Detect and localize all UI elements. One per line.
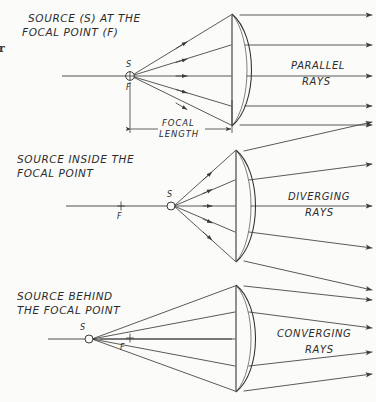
- incident-rays: [92, 286, 235, 391]
- focal-length-dimension: FOCAL LENGTH: [130, 82, 232, 139]
- panel-inside-focal-point: SOURCE INSIDE THE FOCAL POINT: [17, 122, 372, 290]
- focus-label: F: [120, 343, 125, 352]
- source-label: S: [167, 190, 173, 199]
- panel-focal-point: SOURCE (S) AT THE FOCAL POINT (F): [22, 12, 372, 139]
- panel-1-ray-label-line2: RAYS: [302, 76, 331, 87]
- incident-rays: [174, 151, 235, 261]
- focus-label: F: [117, 212, 122, 221]
- focus-point-marker: [118, 202, 125, 210]
- focus-label: F: [126, 83, 131, 92]
- panel-2-title-line2: FOCAL POINT: [17, 167, 95, 179]
- page-edge-artifact: r: [0, 42, 5, 55]
- panel-2-ray-label-line2: RAYS: [305, 207, 334, 218]
- panel-3-title-line1: SOURCE BEHIND: [17, 290, 113, 302]
- focal-length-label-line2: LENGTH: [159, 129, 199, 139]
- panel-1-ray-label-line1: PARALLEL: [291, 60, 345, 71]
- diverging-rays-output: [244, 122, 372, 290]
- panel-3-ray-label-line2: RAYS: [305, 344, 334, 355]
- source-point-marker: [126, 72, 135, 81]
- panel-2-title-line1: SOURCE INSIDE THE: [17, 153, 134, 165]
- panel-1-title-line1: SOURCE (S) AT THE: [28, 12, 141, 24]
- panel-2-ray-label-line1: DIVERGING: [288, 191, 350, 202]
- figure-page: r SOURCE (S) AT THE FOCAL POINT (F): [0, 0, 376, 402]
- focus-point-marker: [127, 334, 134, 342]
- source-point-marker: [167, 202, 175, 210]
- panel-3-title-line2: THE FOCAL POINT: [17, 304, 121, 316]
- panel-1-title-line2: FOCAL POINT (F): [22, 26, 119, 38]
- source-point-marker: [85, 335, 93, 343]
- focal-length-label-line1: FOCAL: [162, 118, 195, 128]
- source-label: S: [126, 60, 132, 69]
- incident-rays: [131, 15, 231, 125]
- lens-plano-convex: [232, 14, 252, 126]
- source-label: S: [80, 323, 86, 332]
- lens-plano-convex: [236, 285, 256, 392]
- panel-3-ray-label-line1: CONVERGING: [277, 328, 351, 339]
- panel-behind-focal-point: SOURCE BEHIND THE FOCAL POINT: [17, 285, 372, 392]
